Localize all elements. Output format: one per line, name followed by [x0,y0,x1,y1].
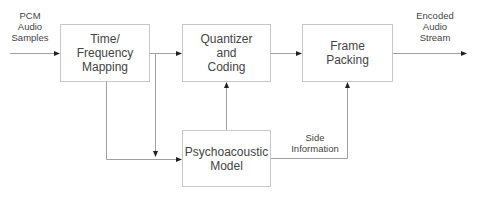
block-time-frequency-mapping: Time/ Frequency Mapping [60,24,150,82]
block-quantizer-coding: Quantizer and Coding [182,24,271,82]
label-side-information: Side Information [284,132,346,154]
block-psychoacoustic-model: Psychoacoustic Model [182,130,271,187]
block-frame-packing: Frame Packing [302,24,393,82]
arrow-tfm-to-pm [107,82,182,160]
label-input: PCM Audio Samples [2,10,58,43]
label-output: Encoded Audio Stream [404,10,466,43]
